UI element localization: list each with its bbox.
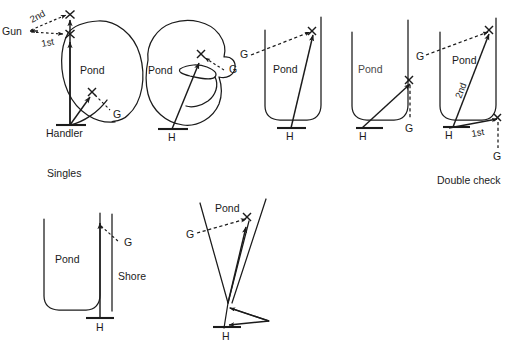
pond-label-6: Pond: [55, 253, 80, 265]
line-handler-to-mark-2: [172, 63, 199, 129]
handler-label-3: H: [286, 130, 294, 142]
correction-arrow-edge-7: [230, 308, 269, 321]
first-label-5: 1st: [470, 126, 485, 139]
mark-3: [308, 27, 316, 35]
handler-label-7: H: [222, 330, 230, 342]
handler-label-4: H: [359, 130, 367, 142]
panel-2-cove-pond: Pond H G: [146, 20, 237, 143]
pond-inner-curve-2: [186, 77, 217, 107]
panel-4-channel-corner: Pond H G: [352, 20, 413, 142]
line-second-5: [453, 34, 489, 127]
guide-line-2: [205, 58, 224, 70]
first-label-1: 1st: [40, 36, 55, 49]
pond-bank-left-lower-7: [224, 303, 228, 328]
shore-label-6: Shore: [118, 270, 146, 282]
guide-line-upper-5: [426, 32, 488, 55]
water-handling-diagram-canvas: Pond Handler Gun 1st 2nd G Pond H G: [0, 0, 515, 352]
guide-label-7: G: [186, 228, 194, 240]
pond-bank-left-7: [200, 203, 228, 303]
panel-5-double-check: Pond H G G 1st 2nd: [416, 18, 501, 162]
mark-2nd-1: [66, 11, 75, 19]
panel-6-shore: Pond Shore H G: [44, 213, 146, 333]
gun-line-1st-1: [31, 32, 63, 34]
pond-label-4: Pond: [358, 63, 383, 75]
guide-label-3: G: [240, 48, 248, 60]
panel-7-narrow-point: Pond H G: [186, 199, 269, 342]
mark-lower-1: [88, 88, 96, 96]
pond-label-7: Pond: [215, 202, 240, 214]
caption-double-check: Double check: [437, 174, 501, 186]
mark-4: [405, 76, 413, 84]
second-label-1: 2nd: [28, 8, 47, 25]
guide-line-3: [251, 32, 310, 55]
caption-singles: Singles: [47, 167, 81, 179]
pond-label-5: Pond: [452, 54, 477, 66]
correction-arrow-lower-7: [229, 321, 269, 325]
handler-label-5: H: [445, 129, 453, 141]
pond-outline-5: [440, 18, 496, 120]
handler-label-2: H: [168, 131, 176, 143]
second-label-5: 2nd: [453, 81, 469, 100]
panel-1-singles: Pond Handler Gun 1st 2nd G: [2, 8, 143, 139]
guide-label-upper-5: G: [416, 50, 424, 62]
line-handler-to-mark-4: [362, 84, 410, 128]
guide-line-7: [197, 219, 246, 233]
guide-label-2: G: [229, 63, 237, 75]
handler-label-1: Handler: [46, 127, 83, 139]
guide-line-lower-1: [95, 95, 110, 110]
guide-label-6: G: [124, 236, 132, 248]
pond-label-2: Pond: [148, 64, 173, 76]
guide-label-4: G: [405, 122, 413, 134]
mark-first-5: [494, 114, 501, 121]
line-handler-to-mark-3: [291, 35, 313, 128]
guide-label-1: G: [113, 108, 121, 120]
panel-3-channel: Pond H G: [240, 17, 321, 142]
diagram-sheet: Pond Handler Gun 1st 2nd G Pond H G: [0, 0, 515, 352]
pond-label-1: Pond: [80, 64, 105, 76]
handler-label-6: H: [96, 321, 104, 333]
gun-label-1: Gun: [2, 25, 22, 37]
mark-2: [197, 50, 205, 58]
guide-line-6: [101, 226, 119, 242]
pond-label-3: Pond: [273, 63, 298, 75]
guide-label-lower-5: G: [493, 150, 501, 162]
